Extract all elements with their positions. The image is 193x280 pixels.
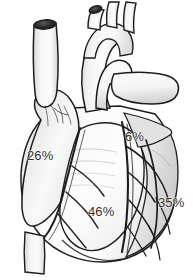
- heart-illustration-figure: 26% 6% 46% 35%: [0, 0, 193, 280]
- inferior-vena-cava: [24, 232, 45, 274]
- superior-vena-cava: [33, 23, 58, 107]
- heart-anatomy-drawing: [0, 0, 193, 280]
- left-common-carotid: [107, 2, 119, 28]
- right-pulmonary-artery: [112, 72, 179, 104]
- left-subclavian: [124, 2, 136, 33]
